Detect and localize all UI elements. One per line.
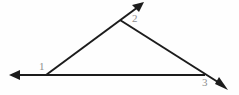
arrowhead-left-icon xyxy=(9,70,20,80)
vertex-label-1: 1 xyxy=(39,61,45,72)
arrowhead-descending-icon xyxy=(215,77,228,90)
geometry-diagram: 1 2 3 xyxy=(0,0,239,95)
vertex-label-3: 3 xyxy=(202,77,208,88)
ray-upper-line xyxy=(46,7,138,75)
vertex-label-2: 2 xyxy=(132,13,138,24)
